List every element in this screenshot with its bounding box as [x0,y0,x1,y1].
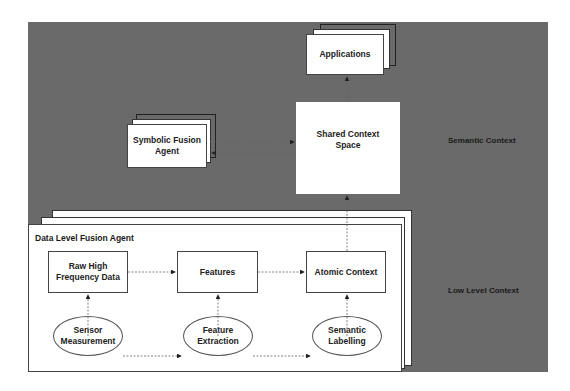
connector-arrows [0,0,570,391]
diagram-canvas: Applications Symbolic Fusion Agent Share… [0,0,570,391]
